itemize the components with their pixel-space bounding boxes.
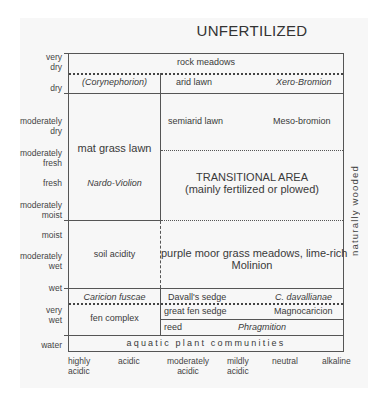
line-mat-grass-bottom bbox=[69, 220, 161, 221]
dotted-line-dry bbox=[69, 73, 343, 75]
tick bbox=[64, 220, 68, 221]
cell-soil-acidity: soil acidity bbox=[69, 249, 160, 260]
y-label-moderately-wet: moderatelywet bbox=[20, 251, 62, 271]
cell-c-davallianae: C. davallianae bbox=[275, 292, 332, 303]
y-label-dry: dry bbox=[50, 83, 62, 93]
cell-great-fen-sedge: great fen sedge bbox=[164, 306, 227, 317]
divider-upper bbox=[160, 73, 161, 220]
cell-davalls-sedge: Davall's sedge bbox=[168, 292, 226, 303]
cell-transitional-sub: (mainly fertilized or plowed) bbox=[161, 184, 343, 195]
dotted-line-very-wet bbox=[69, 303, 343, 305]
cell-reed: reed bbox=[164, 322, 182, 333]
cell-purple-moor-line2: Molinion bbox=[161, 260, 343, 271]
cell-mat-grass-lawn: mat grass lawn bbox=[69, 143, 160, 154]
cell-meso-bromion: Meso-bromion bbox=[273, 116, 331, 127]
y-label-fresh: fresh bbox=[43, 178, 62, 188]
cell-aquatic-plant-communities: aquatic plant communities bbox=[69, 338, 343, 349]
tick bbox=[64, 93, 68, 94]
cell-purple-moor-line1: purple moor grass meadows, lime-rich bbox=[161, 248, 343, 259]
x-label-alkaline: alkaline bbox=[322, 356, 351, 366]
line-water bbox=[69, 335, 343, 336]
y-label-very-dry: verydry bbox=[46, 52, 62, 72]
cell-caricion-fuscae: Caricion fuscae bbox=[69, 292, 160, 303]
line-dry-bottom bbox=[69, 93, 343, 94]
y-label-water: water bbox=[41, 340, 62, 350]
y-label-very-wet: verywet bbox=[46, 305, 62, 325]
x-label-mildly-acidic: mildlyacidic bbox=[227, 356, 249, 376]
tick bbox=[64, 335, 68, 336]
cell-corynephorion: (Corynephorion) bbox=[69, 77, 160, 88]
diagram-title: UNFERTILIZED bbox=[160, 22, 344, 39]
line-wet bbox=[69, 288, 343, 289]
cell-magnocaricion: Magnocaricion bbox=[274, 306, 333, 317]
cell-arid-lawn: arid lawn bbox=[176, 77, 212, 88]
y-label-moist: moist bbox=[42, 230, 62, 240]
x-label-neutral: neutral bbox=[272, 356, 298, 366]
line-reed bbox=[161, 319, 343, 320]
dotted-line-semiarid bbox=[161, 150, 343, 151]
cell-phragmition: Phragmition bbox=[238, 322, 286, 333]
x-label-moderately-acidic: moderatelyacidic bbox=[163, 356, 213, 376]
cell-semiarid-lawn: semiarid lawn bbox=[168, 116, 223, 127]
divider-dash-dry bbox=[160, 74, 161, 93]
side-label-naturally-wooded: naturally wooded bbox=[349, 150, 363, 270]
cell-transitional-title: TRANSITIONAL AREA bbox=[161, 172, 343, 183]
y-label-moderately-dry: moderatelydry bbox=[20, 116, 62, 136]
cell-xero-bromion: Xero-Bromion bbox=[276, 77, 332, 88]
tick bbox=[64, 288, 68, 289]
y-label-moderately-fresh: moderatelyfresh bbox=[20, 148, 62, 168]
divider-lower bbox=[160, 288, 161, 335]
cell-nardo-violion: Nardo-Violion bbox=[69, 178, 160, 189]
y-label-wet: wet bbox=[49, 283, 62, 293]
dotted-line-transitional bbox=[161, 220, 343, 221]
cell-fen-complex: fen complex bbox=[69, 313, 160, 324]
x-label-acidic: acidic bbox=[118, 356, 140, 366]
tick bbox=[64, 53, 68, 54]
cell-rock-meadows: rock meadows bbox=[69, 57, 343, 68]
y-label-moderately-moist: moderatelymoist bbox=[20, 200, 62, 220]
x-label-highly-acidic: highlyacidic bbox=[68, 356, 90, 376]
